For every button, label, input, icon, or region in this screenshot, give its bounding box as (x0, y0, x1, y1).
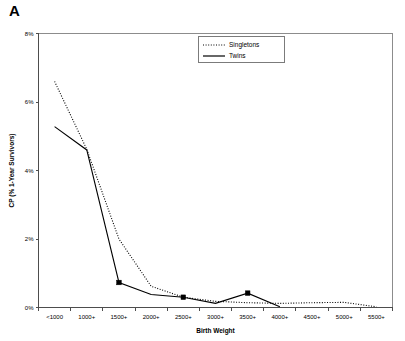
x-tick-label-4000+: 4000+ (271, 314, 288, 320)
legend-label-singletons: Singletons (229, 41, 260, 49)
series-line-twins (55, 127, 280, 307)
y-tick-label-0: 0% (25, 305, 34, 311)
x-tick-label-5500+: 5500+ (368, 314, 385, 320)
y-tick-label-4: 4% (25, 168, 34, 174)
legend-label-twins: Twins (229, 52, 246, 59)
chart-canvas: 0%2%4%6%8%<10001000+1500+2000+2500+3000+… (0, 0, 405, 341)
x-tick-label-2500+: 2500+ (175, 314, 192, 320)
y-tick-label-6: 6% (25, 99, 34, 105)
y-tick-label-8: 8% (25, 31, 34, 37)
x-axis-title: Birth Weight (196, 327, 235, 335)
data-point-twins-1500+ (117, 280, 122, 285)
y-tick-label-2: 2% (25, 236, 34, 242)
x-tick-label-4500+: 4500+ (304, 314, 321, 320)
data-point-twins-3500+ (245, 291, 250, 296)
x-tick-label-3000+: 3000+ (207, 314, 224, 320)
x-tick-label-2000+: 2000+ (143, 314, 160, 320)
x-tick-label-3500+: 3500+ (239, 314, 256, 320)
x-tick-label-5000+: 5000+ (336, 314, 353, 320)
figure-panel-a: A 0%2%4%6%8%<10001000+1500+2000+2500+300… (0, 0, 405, 341)
x-tick-label-1000+: 1000+ (78, 314, 95, 320)
y-axis-title: CP (% 1-Year Survivors) (8, 134, 16, 208)
x-tick-label-1500+: 1500+ (111, 314, 128, 320)
x-tick-label-<1000: <1000 (46, 314, 64, 320)
data-point-twins-2500+ (181, 295, 186, 300)
series-line-singletons (55, 81, 377, 306)
